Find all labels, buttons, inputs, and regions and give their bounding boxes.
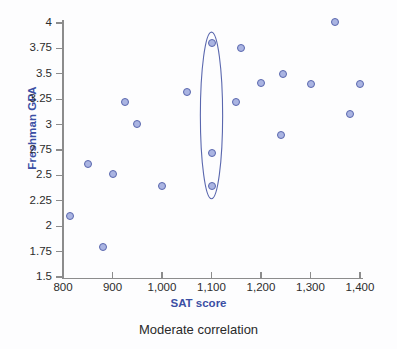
figure-caption: Moderate correlation: [0, 322, 397, 337]
y-tick-label: 2.25: [2, 194, 52, 206]
y-tick-label: 3: [2, 118, 52, 130]
data-point: [237, 44, 245, 52]
data-point: [232, 98, 240, 106]
data-point: [183, 88, 191, 96]
scatter-plot-figure: Freshman GPA SAT score Moderate correlat…: [0, 0, 397, 349]
y-tick-mark: [56, 251, 62, 252]
data-point: [307, 80, 315, 88]
data-point: [208, 39, 216, 47]
data-point: [99, 243, 107, 251]
data-point: [109, 170, 117, 178]
y-tick-mark: [56, 276, 62, 277]
highlight-ellipse-shape: [200, 32, 222, 199]
plot-area: [63, 23, 360, 277]
y-tick-mark: [56, 22, 62, 23]
y-tick-mark: [56, 175, 62, 176]
data-point: [277, 131, 285, 139]
y-tick-label: 2: [2, 219, 52, 231]
x-axis-line: [62, 278, 363, 280]
data-point: [84, 160, 92, 168]
y-tick-label: 3.75: [2, 41, 52, 53]
y-tick-label: 1.75: [2, 245, 52, 257]
data-point: [158, 182, 166, 190]
y-tick-label: 2.75: [2, 143, 52, 155]
data-point: [121, 98, 129, 106]
y-tick-mark: [56, 48, 62, 49]
data-point: [208, 182, 216, 190]
x-tick-label: 1,400: [330, 281, 390, 293]
data-point: [356, 80, 364, 88]
data-point: [331, 18, 339, 26]
data-point: [66, 212, 74, 220]
y-tick-mark: [56, 99, 62, 100]
x-axis-title: SAT score: [0, 297, 397, 309]
data-point: [279, 70, 287, 78]
y-tick-mark: [56, 200, 62, 201]
data-point: [346, 110, 354, 118]
y-tick-mark: [56, 73, 62, 74]
y-tick-label: 3.25: [2, 92, 52, 104]
y-tick-label: 2.5: [2, 168, 52, 180]
y-tick-label: 4: [2, 16, 52, 28]
y-tick-mark: [56, 149, 62, 150]
y-tick-mark: [56, 226, 62, 227]
data-point: [257, 79, 265, 87]
y-tick-mark: [56, 124, 62, 125]
data-point: [208, 149, 216, 157]
y-tick-label: 3.5: [2, 67, 52, 79]
data-point: [133, 120, 141, 128]
